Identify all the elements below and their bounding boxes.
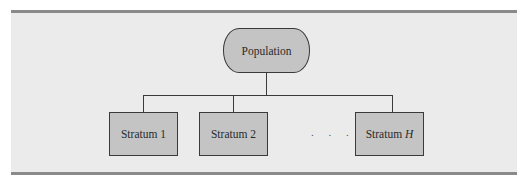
connector-stratum-1 [143, 95, 144, 112]
connector-stratum-h [392, 95, 393, 112]
stratum-h-variable: H [405, 128, 413, 140]
connector-horizontal-bar [143, 95, 393, 96]
stratum-h-text: Stratum [366, 128, 405, 140]
stratum-h-node: Stratum H [355, 112, 424, 156]
stratum-2-node: Stratum 2 [199, 112, 268, 156]
connector-root-vertical [266, 73, 267, 95]
connector-stratum-2 [233, 95, 234, 112]
stratum-2-label: Stratum 2 [211, 128, 256, 140]
stratum-1-label: Stratum 1 [121, 128, 166, 140]
stratum-1-node: Stratum 1 [109, 112, 178, 156]
stratum-h-label: Stratum H [366, 128, 414, 140]
population-label: Population [242, 45, 292, 57]
bottom-rule [11, 172, 517, 175]
population-node: Population [223, 28, 310, 73]
ellipsis: . . . [311, 126, 355, 138]
